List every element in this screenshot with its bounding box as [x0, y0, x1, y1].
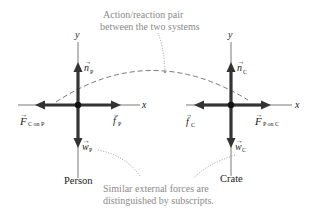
svg-text:P: P: [118, 121, 122, 127]
free-body-diagram: Action/reaction pair between the two sys…: [0, 0, 316, 214]
svg-text:C: C: [191, 122, 195, 128]
vector-arrow-icon: →: [113, 111, 120, 119]
vector-arrow-icon: →: [236, 137, 243, 145]
top-pointer-tip: [164, 71, 166, 73]
annotation-top-line2: between the two systems: [100, 21, 200, 32]
person-y-axis-label: y: [74, 29, 80, 40]
svg-text:P: P: [89, 147, 93, 153]
vector-arrow-icon: →: [83, 137, 90, 145]
vector-arrow-icon: →: [256, 111, 263, 119]
crate-contact-arrowhead: [261, 101, 271, 110]
top-annotation-pointer: [158, 33, 165, 70]
svg-text:C: C: [243, 69, 247, 75]
svg-text:C on P: C on P: [28, 121, 45, 127]
person-contact-arrowhead: [35, 101, 45, 110]
annotation-bottom-line2: distinguished by subscripts.: [103, 195, 214, 206]
person-caption: Person: [64, 175, 93, 186]
crate-friction-arrowhead: [194, 101, 204, 110]
crate-y-axis-label: y: [227, 29, 233, 40]
person-diagram: x y n → P f → P w → P F: [18, 29, 147, 186]
crate-particle: [228, 102, 234, 108]
svg-text:P on C: P on C: [263, 121, 279, 127]
vector-arrow-icon: →: [186, 111, 193, 119]
vector-arrow-icon: →: [21, 111, 28, 119]
crate-x-axis-label: x: [294, 99, 300, 110]
crate-normal-label: n → C: [237, 58, 247, 75]
person-normal-arrowhead: [74, 62, 83, 72]
svg-text:P: P: [90, 69, 94, 75]
crate-diagram: x y n → C f → C w → C F: [186, 29, 301, 184]
crate-contact-label: F → P on C: [254, 111, 279, 127]
crate-normal-arrowhead: [227, 62, 236, 72]
action-reaction-curve: [56, 70, 248, 102]
person-weight-label: w → P: [82, 137, 93, 153]
person-friction-arrowhead: [111, 101, 121, 110]
bottom-annotation-pointer-left: [98, 150, 140, 176]
vector-arrow-icon: →: [85, 58, 92, 66]
annotation-top-line1: Action/reaction pair: [103, 9, 184, 20]
crate-weight-label: w → C: [235, 137, 246, 153]
person-friction-label: f → P: [113, 111, 123, 127]
vector-arrow-icon: →: [238, 58, 245, 66]
person-particle: [75, 102, 81, 108]
person-normal-label: n → P: [84, 58, 94, 75]
svg-text:C: C: [242, 147, 246, 153]
crate-friction-label: f → C: [186, 111, 196, 128]
annotation-bottom-line1: Similar external forces are: [103, 183, 209, 194]
crate-caption: Crate: [220, 173, 243, 184]
person-contact-label: F → C on P: [19, 111, 45, 127]
person-x-axis-label: x: [141, 99, 147, 110]
